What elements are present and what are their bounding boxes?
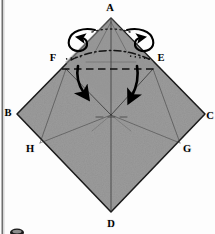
label-e: E — [157, 52, 164, 63]
label-f: F — [50, 52, 56, 63]
origami-diagram-figure: A F E B C H G D — [0, 0, 215, 234]
label-d: D — [107, 218, 115, 229]
label-b: B — [4, 107, 11, 118]
label-h: H — [26, 143, 34, 154]
label-c: C — [206, 110, 214, 121]
label-g: G — [183, 143, 191, 154]
origami-diagram-canvas: A F E B C H G D — [0, 0, 215, 234]
label-apex-a: A — [106, 2, 114, 13]
